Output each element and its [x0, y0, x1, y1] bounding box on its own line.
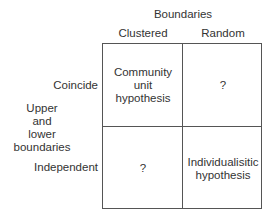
column-axis-title: Boundaries [103, 8, 263, 20]
cell-coincide-random: ? [183, 44, 263, 127]
row-header-coincide: Coincide [53, 79, 98, 91]
cell-independent-clustered: ? [103, 127, 183, 210]
row-axis-title-line: lower [0, 128, 84, 141]
row-axis-title-line: and [0, 115, 84, 128]
column-header-clustered: Clustered [103, 27, 183, 39]
column-header-random: Random [183, 27, 263, 39]
row-axis-title: Upper and lower boundaries [0, 102, 84, 154]
row-header-independent: Independent [34, 161, 98, 173]
cell-text-line: Community [114, 66, 172, 79]
cell-text-line: unit [114, 79, 172, 92]
row-axis-title-line: Upper [0, 102, 84, 115]
cell-independent-random: Individualisitic hypothesis [183, 127, 263, 210]
cell-coincide-clustered: Community unit hypothesis [103, 44, 183, 127]
row-axis-title-line: boundaries [0, 141, 84, 154]
cell-text-line: hypothesis [114, 92, 172, 105]
cell-text-line: ? [220, 79, 226, 92]
cell-text-line: hypothesis [188, 169, 259, 182]
cell-text-line: Individualisitic [188, 156, 259, 169]
cell-text-line: ? [140, 162, 146, 175]
